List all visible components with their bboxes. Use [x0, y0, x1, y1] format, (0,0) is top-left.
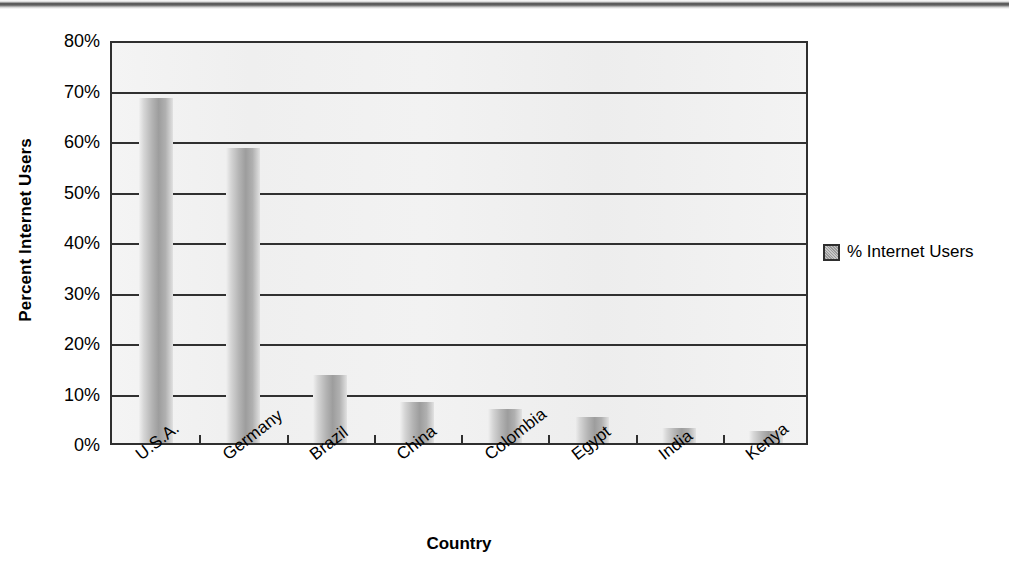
- bar-germany: [226, 148, 260, 443]
- y-tick-label: 80%: [38, 32, 100, 50]
- bar-slot: [374, 43, 461, 443]
- bar-u-s-a: [139, 98, 173, 443]
- y-tick-label: 0%: [38, 436, 100, 454]
- bar-slot: [287, 43, 374, 443]
- y-tick-label: 60%: [38, 133, 100, 151]
- scan-edge-band: [0, 0, 1009, 9]
- page-caption-fragment: [18, 566, 718, 577]
- y-tick-label: 10%: [38, 386, 100, 404]
- bar-slot: [199, 43, 286, 443]
- y-tick-label: 40%: [38, 234, 100, 252]
- legend-label: % Internet Users: [847, 242, 974, 262]
- bar-slot: [723, 43, 810, 443]
- bar-slot: [548, 43, 635, 443]
- plot-area: [110, 41, 808, 445]
- y-tick-label: 20%: [38, 335, 100, 353]
- x-tick-mark: [199, 435, 201, 444]
- y-axis-tick-labels: 0%10%20%30%40%50%60%70%80%: [34, 0, 100, 578]
- y-tick-label: 50%: [38, 184, 100, 202]
- x-tick-mark: [548, 435, 550, 444]
- y-tick-label: 70%: [38, 83, 100, 101]
- x-tick-mark: [461, 435, 463, 444]
- x-tick-mark: [723, 435, 725, 444]
- x-axis-title: Country: [110, 534, 808, 554]
- chart-legend: % Internet Users: [823, 242, 974, 262]
- y-axis-title: Percent Internet Users: [16, 100, 36, 360]
- legend-swatch-internet-users: [823, 244, 840, 261]
- x-tick-mark: [374, 435, 376, 444]
- bar-slot: [112, 43, 199, 443]
- x-tick-mark: [636, 435, 638, 444]
- x-tick-mark: [287, 435, 289, 444]
- chart-figure: Percent Internet Users 0%10%20%30%40%50%…: [0, 0, 1009, 578]
- x-axis-tick-labels: U.S.A.GermanyBrazilChinaColombiaEgyptInd…: [110, 449, 808, 539]
- bar-slot: [461, 43, 548, 443]
- bar-slot: [636, 43, 723, 443]
- y-tick-label: 30%: [38, 285, 100, 303]
